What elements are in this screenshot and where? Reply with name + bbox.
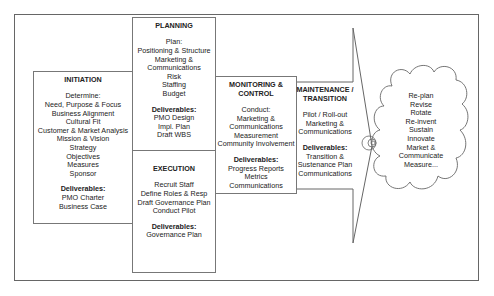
phase-title: INITIATION bbox=[34, 76, 132, 84]
phase-title: PLANNING bbox=[133, 22, 215, 30]
phase-execution: EXECUTION Recruit Staff Define Roles & R… bbox=[132, 150, 216, 273]
deliverable: Draft WBS bbox=[133, 131, 215, 140]
deliverable: Communications bbox=[296, 170, 354, 179]
item: Communications bbox=[296, 128, 354, 137]
cloud-item: Measure... bbox=[384, 161, 458, 170]
phase-title-line2: TRANSITION bbox=[296, 95, 354, 104]
cloud-text: Re-plan Revise Rotate Re-invent Sustain … bbox=[384, 92, 458, 169]
deliverable: Business Case bbox=[34, 203, 132, 212]
item: Community Involvement bbox=[216, 140, 296, 149]
deliverable: Communications bbox=[216, 182, 296, 191]
phase-monitoring-control: MONITORING & CONTROL Conduct: Marketing … bbox=[215, 76, 297, 194]
phase-title-line2: CONTROL bbox=[216, 90, 296, 98]
phase-planning: PLANNING Plan: Positioning & Structure M… bbox=[132, 17, 216, 151]
item: Budget bbox=[133, 90, 215, 99]
deliverable: Governance Plan bbox=[133, 231, 215, 240]
item: Conduct Pilot bbox=[133, 207, 215, 216]
item: Sponsor bbox=[34, 170, 132, 179]
phase-maintenance-transition: MAINTENANCE / TRANSITION Pilot / Roll-ou… bbox=[296, 82, 354, 190]
phase-title: EXECUTION bbox=[133, 165, 215, 173]
phase-initiation: INITIATION Determine: Need, Purpose & Fo… bbox=[33, 71, 133, 224]
